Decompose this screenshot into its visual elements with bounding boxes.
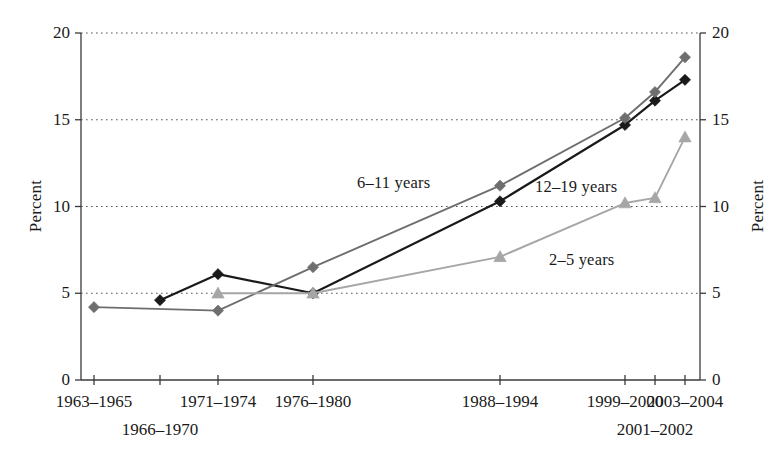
y-axis-tick-label: 15 (40, 110, 70, 130)
y-axis-tick-label: 0 (40, 370, 70, 390)
x-axis-tick-label: 1988–1994 (462, 392, 539, 412)
series-marker (679, 131, 691, 142)
series-marker (649, 192, 661, 203)
y-axis-tick-label: 5 (712, 283, 721, 303)
series-marker (494, 196, 505, 207)
y-axis-tick-label: 10 (40, 197, 70, 217)
x-axis-tick-label: 1963–1965 (56, 392, 133, 412)
series-marker (212, 305, 223, 316)
series-marker (88, 302, 99, 313)
x-axis-tick-label: 2001–2002 (617, 420, 694, 440)
chart-container: Percent Percent 05101520 05101520 1963–1… (0, 0, 779, 468)
series-marker (154, 295, 165, 306)
series-marker (212, 269, 223, 280)
series-line (218, 137, 685, 293)
y-axis-tick-label: 20 (712, 23, 729, 43)
series-label: 12–19 years (535, 177, 617, 197)
y-axis-tick-label: 0 (712, 370, 721, 390)
series-marker (494, 180, 505, 191)
series-marker (307, 262, 318, 273)
series-label: 6–11 years (357, 173, 430, 193)
y-axis-tick-label: 10 (712, 197, 729, 217)
series-marker (494, 251, 506, 262)
y-axis-tick-label: 15 (712, 110, 729, 130)
x-axis-tick-label: 1966–1970 (122, 420, 199, 440)
y-axis-title-right: Percent (748, 146, 768, 266)
x-axis-tick-label: 1971–1974 (180, 392, 257, 412)
x-axis-tick-label: 2003–2004 (647, 392, 724, 412)
y-axis-tick-label: 5 (40, 283, 70, 303)
series-label: 2–5 years (549, 250, 615, 270)
x-axis-tick-label: 1976–1980 (275, 392, 352, 412)
y-axis-tick-label: 20 (40, 23, 70, 43)
